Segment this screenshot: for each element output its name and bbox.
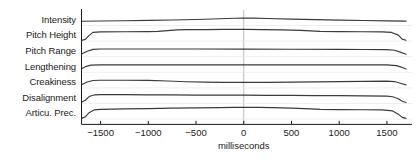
plot-canvas bbox=[0, 0, 416, 167]
x-tick-label: 0 bbox=[241, 127, 246, 138]
x-tick-label: 500 bbox=[284, 127, 300, 138]
x-axis-title: milliseconds bbox=[218, 140, 270, 151]
x-tick-label: 1500 bbox=[376, 127, 397, 138]
strip-chart-figure: IntensityPitch HeightPitch RangeLengthen… bbox=[0, 0, 416, 167]
x-tick-label: −500 bbox=[185, 127, 206, 138]
x-tick-label: −1000 bbox=[135, 127, 162, 138]
x-tick-label: 1000 bbox=[329, 127, 350, 138]
x-tick-label: −1500 bbox=[87, 127, 114, 138]
panel-lines-group bbox=[82, 10, 413, 123]
